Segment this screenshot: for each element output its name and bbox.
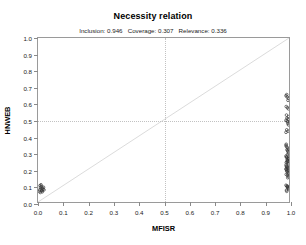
y-axis-tick <box>34 71 38 72</box>
y-axis-tick <box>34 121 38 122</box>
x-axis-tick <box>291 202 292 206</box>
plot-area: 0.00.10.20.30.40.50.60.70.80.91.00.00.10… <box>38 38 289 202</box>
chart-screenshot: Necessity relation Inclusion: 0.946 Cove… <box>0 0 306 245</box>
x-axis-tick-label: 0.7 <box>211 209 220 216</box>
y-axis-tick <box>34 38 38 39</box>
y-axis-tick-label: 0.6 <box>23 101 32 108</box>
x-axis-tick-label: 0.4 <box>135 209 144 216</box>
y-axis-tick <box>34 138 38 139</box>
plot-panel: 0.00.10.20.30.40.50.60.70.80.91.00.00.10… <box>37 37 290 203</box>
x-axis-tick-label: 0.2 <box>84 209 93 216</box>
scatter-point <box>285 114 288 117</box>
x-axis-tick <box>38 202 39 206</box>
y-axis-tick <box>34 55 38 56</box>
x-axis-tick <box>165 202 166 206</box>
x-axis-tick <box>190 202 191 206</box>
y-axis-tick-label: 1.0 <box>23 35 32 42</box>
y-axis-tick <box>34 104 38 105</box>
y-axis-tick <box>34 88 38 89</box>
chart-title: Necessity relation <box>0 11 306 21</box>
y-axis-title: HNWEB <box>2 37 14 203</box>
x-axis-tick <box>114 202 115 206</box>
x-axis-tick-label: 0.3 <box>110 209 119 216</box>
x-axis-tick <box>63 202 64 206</box>
y-axis-tick-label: 0.0 <box>23 201 32 208</box>
x-axis-tick-label: 0.5 <box>160 209 169 216</box>
x-axis-title: MFISR <box>37 224 290 233</box>
y-axis-tick-label: 0.1 <box>23 184 32 191</box>
x-axis-tick-label: 0.1 <box>59 209 68 216</box>
y-axis-title-text: HNWEB <box>4 106 13 134</box>
x-axis-tick-label: 0.9 <box>261 209 270 216</box>
y-axis-tick <box>34 154 38 155</box>
x-axis-tick <box>215 202 216 206</box>
x-axis-tick-label: 0.0 <box>34 209 43 216</box>
x-axis-tick-label: 1.0 <box>287 209 296 216</box>
y-axis-tick-label: 0.3 <box>23 151 32 158</box>
x-axis-tick-label: 0.6 <box>185 209 194 216</box>
y-axis-tick <box>34 171 38 172</box>
y-axis-tick-label: 0.8 <box>23 68 32 75</box>
y-axis-tick-label: 0.7 <box>23 84 32 91</box>
scatter-points-layer <box>38 38 289 202</box>
x-axis-tick <box>240 202 241 206</box>
x-axis-tick <box>139 202 140 206</box>
x-axis-tick <box>266 202 267 206</box>
y-axis-tick-label: 0.2 <box>23 167 32 174</box>
y-axis-tick-label: 0.4 <box>23 134 32 141</box>
x-axis-tick-label: 0.8 <box>236 209 245 216</box>
y-axis-tick <box>34 187 38 188</box>
x-axis-tick <box>89 202 90 206</box>
chart-subtitle-stats: Inclusion: 0.946 Coverage: 0.307 Relevan… <box>0 27 306 34</box>
y-axis-tick-label: 0.9 <box>23 51 32 58</box>
y-axis-tick-label: 0.5 <box>23 118 32 125</box>
